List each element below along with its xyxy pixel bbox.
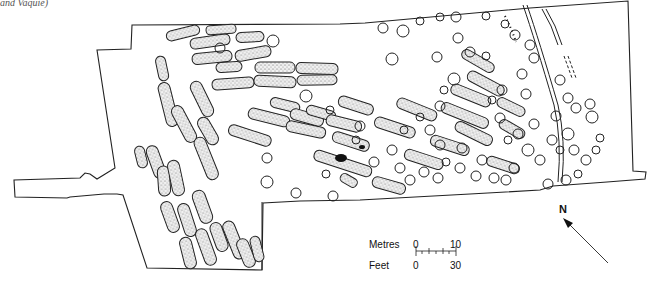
scale-feet-start: 0 (413, 260, 419, 271)
site-plan (0, 0, 648, 282)
figure-caption-fragment: and Vaquié) (0, 0, 48, 8)
scale-metres-label: Metres (369, 239, 400, 250)
dark-features (335, 145, 365, 162)
scale-feet-label: Feet (369, 260, 389, 271)
scale-metres-end: 10 (450, 239, 461, 250)
scale-metres-start: 0 (413, 239, 419, 250)
pits (133, 24, 526, 270)
north-arrow-icon (563, 218, 608, 263)
scale-feet-end: 30 (450, 260, 461, 271)
north-label: N (559, 203, 567, 215)
